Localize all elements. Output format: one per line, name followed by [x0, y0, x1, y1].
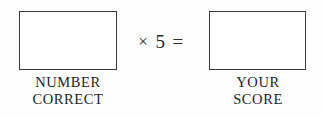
equals-sign-icon: = [172, 32, 183, 51]
number-correct-input-box[interactable] [19, 11, 117, 70]
your-score-input-box[interactable] [209, 11, 306, 70]
number-correct-label: NUMBER CORRECT [4, 74, 132, 108]
number-correct-label-line2: CORRECT [4, 91, 132, 108]
multiplier-value: 5 [155, 32, 165, 51]
your-score-label-line2: SCORE [194, 91, 322, 108]
your-score-label-line1: YOUR [194, 74, 322, 91]
formula-expression: × 5 = [128, 28, 194, 54]
score-calculation-form: × 5 = NUMBER CORRECT YOUR SCORE [0, 0, 322, 118]
your-score-label: YOUR SCORE [194, 74, 322, 108]
multiplication-sign-icon: × [138, 33, 148, 50]
number-correct-label-line1: NUMBER [4, 74, 132, 91]
